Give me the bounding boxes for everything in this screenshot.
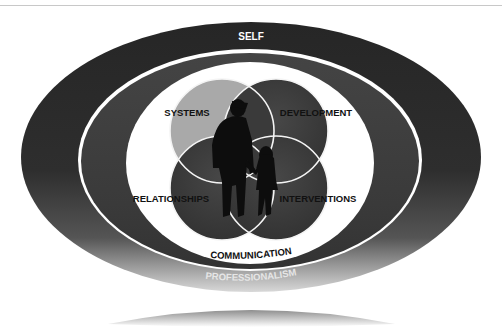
professional-practice-diagram: SELF SYSTEMS DEVELOPMENT RELATIONSHIPS I…: [0, 0, 502, 335]
development-label: DEVELOPMENT: [280, 107, 353, 118]
interventions-label: INTERVENTIONS: [280, 193, 357, 204]
relationships-label: RELATIONSHIPS: [133, 193, 209, 204]
self-label: SELF: [238, 31, 264, 42]
reflection-shadow: [108, 310, 395, 327]
systems-label: SYSTEMS: [164, 107, 209, 118]
